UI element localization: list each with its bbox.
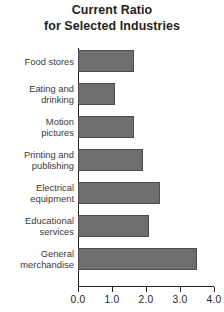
bar xyxy=(78,248,197,270)
category-label-line: equipment xyxy=(0,193,74,204)
x-tick-mark xyxy=(112,287,113,292)
category-label: Printing andpublishing xyxy=(0,149,74,171)
bar xyxy=(78,116,134,138)
x-tick-mark xyxy=(214,287,215,292)
category-label: Educationalservices xyxy=(0,215,74,237)
chart-title-line-1: Current Ratio xyxy=(9,2,215,18)
category-label-line: merchandise xyxy=(0,259,74,270)
category-label-line: Printing and xyxy=(0,149,74,160)
x-tick-mark xyxy=(146,287,147,292)
category-label-line: Food stores xyxy=(0,56,74,67)
category-label: Generalmerchandise xyxy=(0,248,74,270)
category-label-line: Motion xyxy=(0,116,74,127)
bar xyxy=(78,83,115,105)
category-label-line: Eating and xyxy=(0,83,74,94)
x-tick-mark xyxy=(180,287,181,292)
category-label: Food stores xyxy=(0,56,74,67)
bar-chart: Current Ratio for Selected Industries 0.… xyxy=(0,0,224,312)
category-label: Motionpictures xyxy=(0,116,74,138)
category-label-line: drinking xyxy=(0,94,74,105)
plot-area: 0.01.02.03.04.0 xyxy=(78,48,214,286)
chart-title: Current Ratio for Selected Industries xyxy=(9,2,215,33)
category-label-line: services xyxy=(0,226,74,237)
category-label-line: publishing xyxy=(0,160,74,171)
x-tick-label: 4.0 xyxy=(194,294,224,305)
category-label-line: pictures xyxy=(0,127,74,138)
category-label-line: Educational xyxy=(0,215,74,226)
category-label-line: Electrical xyxy=(0,182,74,193)
bar xyxy=(78,182,160,204)
x-tick-mark xyxy=(78,287,79,292)
bar xyxy=(78,149,143,171)
category-label: Eating anddrinking xyxy=(0,83,74,105)
category-label-line: General xyxy=(0,248,74,259)
bar xyxy=(78,50,134,72)
bar xyxy=(78,215,149,237)
category-label: Electricalequipment xyxy=(0,182,74,204)
chart-title-line-2: for Selected Industries xyxy=(9,18,215,34)
